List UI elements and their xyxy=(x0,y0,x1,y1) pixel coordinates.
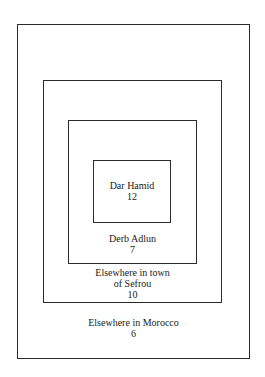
label-elsewhere-in-sefrou: Elsewhere in town of Sefrou 10 xyxy=(44,267,221,300)
region-name: Elsewhere in Morocco xyxy=(18,317,249,328)
label-dar-hamid: Dar Hamid 12 xyxy=(94,180,170,202)
box-dar-hamid: Dar Hamid 12 xyxy=(93,160,171,223)
region-name: Dar Hamid xyxy=(94,180,170,191)
label-derb-adlun: Derb Adlun 7 xyxy=(69,233,196,255)
region-name-line2: of Sefrou xyxy=(44,278,221,289)
region-count: 7 xyxy=(69,244,196,255)
region-count: 12 xyxy=(94,191,170,202)
region-name-line1: Elsewhere in town xyxy=(44,267,221,278)
region-count: 6 xyxy=(18,328,249,339)
label-elsewhere-in-morocco: Elsewhere in Morocco 6 xyxy=(18,317,249,339)
region-name: Derb Adlun xyxy=(69,233,196,244)
region-count: 10 xyxy=(44,289,221,300)
